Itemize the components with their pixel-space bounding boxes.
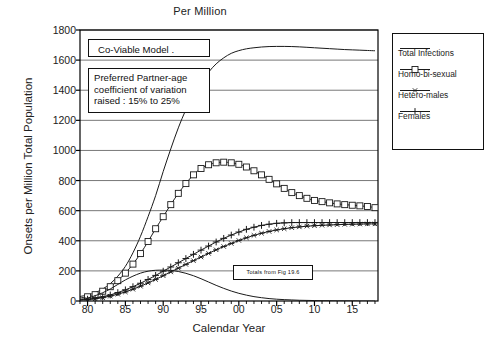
legend-entry-homo-bi-sexual: Homo-bi-sexual [398, 60, 483, 80]
legend-marker-square-icon [398, 60, 432, 69]
legend-entry-females: Females [398, 102, 483, 122]
legend-marker-none-icon [398, 39, 432, 48]
annotation-partner-line2: coefficient of variation [94, 84, 204, 96]
annotation-preferred-partner-age: Preferred Partner-age coefficient of var… [88, 68, 210, 113]
annotation-partner-line1: Preferred Partner-age [94, 72, 204, 84]
chart-legend: Total InfectionsHomo-bi-sexualHetero-mal… [392, 33, 484, 150]
annotation-totals-text: Totals from Fig 19.6 [246, 267, 299, 279]
annotation-partner-line3: raised : 15% to 25% [94, 95, 204, 107]
legend-entry-hetero-males: Hetero-males [398, 81, 483, 101]
chart-figure: Per Million Onsets per Million Total Pop… [0, 0, 489, 345]
legend-entry-total-infections: Total Infections [398, 39, 483, 59]
legend-marker-plus-icon [398, 102, 432, 111]
annotation-model-text: Co-Viable Model . [98, 44, 174, 55]
legend-marker-asterisk-icon [398, 81, 432, 90]
annotation-co-viable-model: Co-Viable Model . [88, 39, 210, 57]
annotation-totals-from-fig: Totals from Fig 19.6 [233, 265, 313, 280]
